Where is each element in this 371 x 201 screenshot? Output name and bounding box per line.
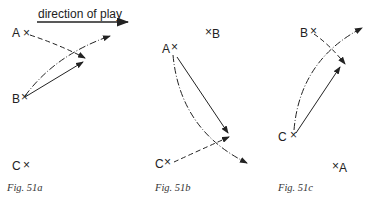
ball-path-dashdot xyxy=(294,28,362,130)
figure-caption: Fig. 51b xyxy=(154,182,191,193)
player-c-marker: × xyxy=(290,128,297,142)
figure-51a: A × B × C × Fig. 51a xyxy=(6,26,110,193)
direction-label: direction of play xyxy=(38,7,122,21)
player-b-marker: × xyxy=(205,25,212,39)
direction-of-play: direction of play xyxy=(37,7,128,22)
player-b-marker: × xyxy=(21,90,28,104)
ball-path-dashdot xyxy=(25,36,110,96)
player-a-label: A xyxy=(12,26,20,40)
diagram-canvas: direction of play A × B × C × Fig. 51a A… xyxy=(0,0,371,201)
player-a-label: A xyxy=(162,42,170,56)
figure-51b: A × × B C × Fig. 51b xyxy=(154,25,247,193)
run-line-dashed xyxy=(174,137,229,162)
player-b-label: B xyxy=(212,27,220,41)
player-c-marker: × xyxy=(164,155,171,169)
figure-caption: Fig. 51c xyxy=(277,182,313,193)
pass-line-solid xyxy=(177,57,228,133)
pass-line-solid xyxy=(296,67,340,133)
player-b-label: B xyxy=(12,92,20,106)
run-line-dashed xyxy=(30,35,85,58)
player-a-marker: × xyxy=(171,40,178,54)
player-c-marker: × xyxy=(23,158,30,172)
player-c-label: C xyxy=(155,157,164,171)
figure-51c: B × C × × A Fig. 51c xyxy=(277,24,362,193)
player-a-label: A xyxy=(339,161,347,175)
ball-path-dashdot xyxy=(173,55,247,163)
player-a-marker: × xyxy=(332,159,339,173)
pass-line-solid xyxy=(25,62,83,97)
player-a-marker: × xyxy=(23,26,30,40)
player-b-label: B xyxy=(300,26,308,40)
run-line-dashed xyxy=(314,34,345,64)
player-c-label: C xyxy=(12,159,21,173)
player-c-label: C xyxy=(278,130,287,144)
figure-caption: Fig. 51a xyxy=(6,182,43,193)
